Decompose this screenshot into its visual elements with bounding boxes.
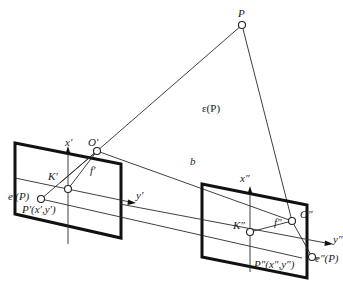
label-K1: K' bbox=[47, 170, 58, 182]
point-P1 bbox=[38, 196, 45, 203]
label-O1: O' bbox=[88, 136, 99, 148]
y2-arrow-icon bbox=[325, 241, 334, 247]
point-K1 bbox=[65, 186, 72, 193]
label-P2: P″(x″,y″) bbox=[253, 258, 295, 271]
label-e1: e'(P) bbox=[8, 190, 30, 203]
x2-arrow-icon bbox=[248, 186, 253, 194]
label-f1: f' bbox=[90, 164, 96, 176]
ray-O2-P2 bbox=[292, 221, 312, 257]
point-O1 bbox=[94, 148, 101, 155]
label-f2: f″ bbox=[274, 216, 282, 228]
label-P: P bbox=[237, 7, 245, 19]
label-O2: O″ bbox=[300, 208, 313, 220]
label-K2: K″ bbox=[232, 219, 245, 231]
ray-P-O1 bbox=[97, 25, 242, 151]
point-P bbox=[239, 22, 246, 29]
point-O2 bbox=[289, 218, 296, 225]
label-b: b bbox=[190, 155, 196, 167]
label-plane: ε(P) bbox=[202, 102, 220, 115]
focal-f2 bbox=[250, 221, 292, 232]
y1-axis bbox=[15, 178, 130, 202]
label-y1: y' bbox=[135, 189, 144, 201]
epipolar-diagram: P ε(P) O' x' K' f' y' e'(P) P'(x',y') b … bbox=[0, 0, 343, 290]
label-x2: x″ bbox=[239, 172, 250, 184]
label-y2: y″ bbox=[332, 233, 343, 245]
point-K2 bbox=[247, 229, 254, 236]
label-x1: x' bbox=[64, 136, 73, 148]
y1-arrow-icon bbox=[128, 200, 137, 206]
label-e2: e″(P) bbox=[315, 252, 339, 265]
label-P1: P'(x',y') bbox=[21, 203, 56, 216]
